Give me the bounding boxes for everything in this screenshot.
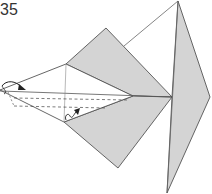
tail-colored-flap bbox=[167, 1, 210, 193]
crease-line-top bbox=[124, 1, 178, 46]
origami-diagram bbox=[0, 0, 212, 194]
